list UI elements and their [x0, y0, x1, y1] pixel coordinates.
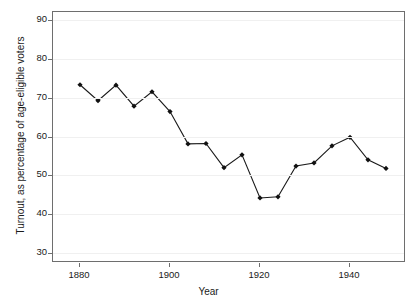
chart-container: Turnout, as percentage of age-eligible v…: [0, 0, 417, 308]
gridline-y-40: [53, 214, 404, 215]
y-tick-label-90: 90: [17, 14, 47, 24]
gridline-y-70: [53, 98, 404, 99]
y-tick-label-40: 40: [17, 208, 47, 218]
gridline-y-90: [53, 20, 404, 21]
y-tick-mark-40: [48, 214, 52, 215]
data-point-1928: [293, 163, 298, 168]
gridline-y-80: [53, 59, 404, 60]
x-tick-mark-1880: [79, 263, 80, 267]
x-tick-mark-1920: [259, 263, 260, 267]
x-axis: 1880190019201940: [52, 263, 405, 285]
x-tick-mark-1940: [349, 263, 350, 267]
x-tick-label-1920: 1920: [239, 270, 279, 280]
y-tick-label-60: 60: [17, 131, 47, 141]
y-tick-mark-70: [48, 98, 52, 99]
gridline-y-30: [53, 253, 404, 254]
data-point-1948: [383, 166, 388, 171]
y-tick-mark-80: [48, 59, 52, 60]
gridline-y-50: [53, 175, 404, 176]
y-tick-label-30: 30: [17, 247, 47, 257]
data-point-1924: [275, 194, 280, 199]
y-tick-label-80: 80: [17, 53, 47, 63]
y-tick-label-50: 50: [17, 169, 47, 179]
x-tick-mark-1900: [169, 263, 170, 267]
y-tick-mark-90: [48, 20, 52, 21]
y-tick-mark-60: [48, 137, 52, 138]
series-line: [80, 85, 386, 198]
x-axis-label: Year: [0, 286, 417, 297]
plot-area: [52, 11, 405, 262]
data-point-1920: [257, 195, 262, 200]
x-tick-label-1900: 1900: [149, 270, 189, 280]
x-tick-label-1940: 1940: [329, 270, 369, 280]
gridline-y-60: [53, 137, 404, 138]
data-point-1904: [185, 141, 190, 146]
y-tick-mark-30: [48, 253, 52, 254]
y-tick-label-70: 70: [17, 92, 47, 102]
x-tick-label-1880: 1880: [59, 270, 99, 280]
y-tick-mark-50: [48, 175, 52, 176]
y-axis: 30405060708090: [14, 11, 47, 262]
